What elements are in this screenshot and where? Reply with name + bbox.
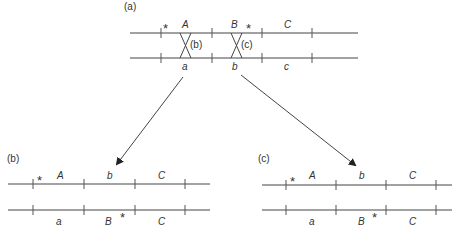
- allele-c: c: [284, 61, 289, 72]
- allele-A: A: [308, 170, 316, 181]
- allele-C: C: [158, 216, 166, 227]
- marker-asterisk: *: [120, 210, 125, 225]
- marker-asterisk: *: [246, 21, 251, 36]
- allele-a: a: [56, 216, 62, 227]
- crossover-b: (b): [180, 33, 202, 58]
- arrow-to-b: [117, 77, 183, 164]
- recombination-diagram: (a) * A B * C a b c (b) (c): [0, 0, 456, 230]
- marker-asterisk: *: [163, 21, 168, 36]
- panel-b: (b) * A b C a B * C: [7, 153, 210, 227]
- panel-b-label: (b): [7, 153, 19, 164]
- allele-B: B: [358, 216, 365, 227]
- panel-c-label: (c): [258, 153, 270, 164]
- allele-C: C: [409, 216, 417, 227]
- allele-b: b: [359, 170, 365, 181]
- allele-b: b: [232, 61, 238, 72]
- allele-C: C: [409, 170, 417, 181]
- panel-a: (a) * A B * C a b c (b) (c): [124, 1, 358, 72]
- svg-text:(c): (c): [241, 39, 253, 50]
- allele-a: a: [309, 216, 315, 227]
- marker-asterisk: *: [372, 210, 377, 225]
- allele-C: C: [158, 170, 166, 181]
- allele-C: C: [284, 19, 292, 30]
- arrow-to-c: [241, 75, 355, 165]
- allele-A: A: [56, 170, 64, 181]
- panel-c: (c) * A b C a B * C: [258, 153, 452, 227]
- panel-a-label: (a): [124, 1, 136, 12]
- svg-text:(b): (b): [190, 39, 202, 50]
- marker-asterisk: *: [37, 173, 42, 188]
- allele-a: a: [182, 61, 188, 72]
- allele-B: B: [105, 216, 112, 227]
- marker-asterisk: *: [290, 174, 295, 189]
- allele-A: A: [181, 19, 189, 30]
- crossover-c: (c): [231, 33, 253, 58]
- allele-B: B: [231, 19, 238, 30]
- allele-b: b: [107, 170, 113, 181]
